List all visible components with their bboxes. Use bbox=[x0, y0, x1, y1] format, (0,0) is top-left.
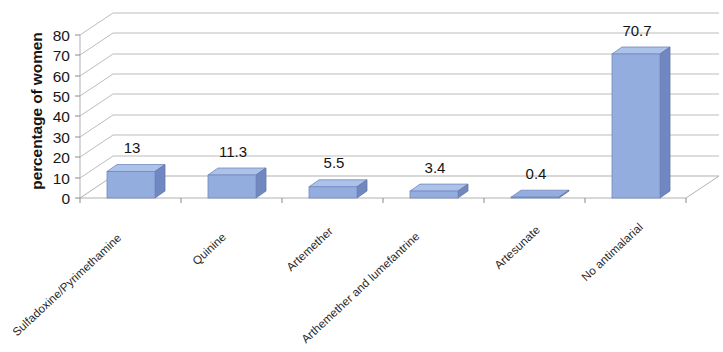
y-tick-50: 50 bbox=[36, 89, 70, 105]
value-label-sulfadoxine-pyrimethamine: 13 bbox=[108, 140, 156, 155]
x-axis-ticks bbox=[80, 198, 686, 203]
bar-artemether bbox=[309, 180, 367, 198]
y-tick-30: 30 bbox=[36, 130, 70, 146]
y-tick-70: 70 bbox=[36, 48, 70, 64]
bar-quinine bbox=[208, 168, 266, 198]
y-tick-10: 10 bbox=[36, 171, 70, 187]
value-label-no-antimalarial: 70.7 bbox=[613, 23, 661, 38]
value-label-artemether: 5.5 bbox=[310, 155, 358, 170]
bar-artesunate bbox=[511, 190, 569, 198]
value-label-quinine: 11.3 bbox=[209, 144, 257, 159]
bar-arthemether-and-lumefantrine bbox=[410, 184, 468, 198]
y-tick-20: 20 bbox=[36, 150, 70, 166]
y-tick-80: 80 bbox=[36, 28, 70, 44]
bar-no-antimalarial bbox=[612, 47, 670, 198]
y-tick-0: 0 bbox=[36, 191, 70, 207]
value-label-artesunate: 0.4 bbox=[512, 166, 560, 181]
y-axis-ticks bbox=[75, 35, 80, 198]
value-label-arthemether-and-lumefantrine: 3.4 bbox=[411, 160, 459, 175]
y-tick-40: 40 bbox=[36, 109, 70, 125]
bar-sulfadoxine-pyrimethamine bbox=[107, 165, 165, 199]
bar-chart: percentage of women 80 70 60 50 40 30 20… bbox=[0, 0, 723, 352]
chart-canvas bbox=[0, 0, 723, 352]
y-tick-60: 60 bbox=[36, 69, 70, 85]
